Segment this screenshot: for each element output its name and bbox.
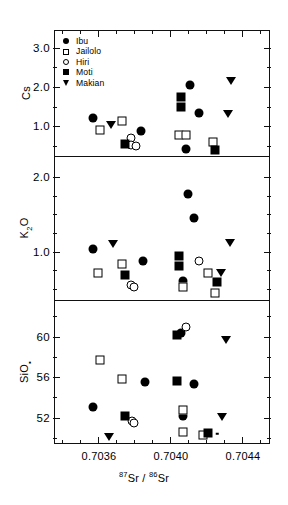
legend-label: Hiri [76, 57, 89, 67]
open-square-icon [63, 49, 69, 55]
figure-root: 3.02.01.0 Cs 2.01.0 K2O 605652 SiO▪ 0.70… [0, 0, 288, 505]
legend-label: Jailolo [76, 46, 101, 56]
x-tick-minor [224, 440, 225, 444]
filled-triangle-down-icon [63, 80, 69, 86]
x-tick-major-top [242, 30, 243, 37]
x-tick-minor [188, 440, 189, 444]
x-tick-minor [80, 440, 81, 444]
x-tick-minor [62, 440, 63, 444]
x-tick-minor [260, 440, 261, 444]
x-axis-title: 87Sr / 86Sr [0, 470, 288, 484]
x-tick-minor-top [206, 30, 207, 34]
filled-square-icon [63, 69, 69, 75]
x-tick-minor-top [224, 30, 225, 34]
legend-item-hiri: Hiri [63, 57, 104, 67]
x-tick-minor-top [62, 30, 63, 34]
legend-symbol-slot [63, 80, 76, 86]
legend: IbuJailoloHiriMotiMakian [63, 36, 104, 88]
x-tick-major [242, 437, 243, 444]
legend-label: Makian [76, 78, 104, 88]
x-axis: 0.70360.70400.7044 [0, 0, 288, 505]
legend-label: Ibu [76, 36, 88, 46]
legend-symbol-slot [63, 69, 76, 75]
x-tick-minor [134, 440, 135, 444]
x-tick-minor-top [116, 30, 117, 34]
x-tick-major-top [170, 30, 171, 37]
x-tick-label: 0.7044 [226, 450, 261, 462]
legend-symbol-slot [63, 38, 76, 44]
legend-label: Moti [76, 67, 93, 77]
x-tick-minor-top [188, 30, 189, 34]
superscript-86: 86 [149, 470, 158, 479]
superscript-87: 87 [119, 470, 128, 479]
legend-symbol-slot [63, 59, 76, 65]
legend-item-ibu: Ibu [63, 36, 104, 46]
x-tick-minor-top [260, 30, 261, 34]
x-tick-label: 0.7040 [154, 450, 189, 462]
x-tick-major [170, 437, 171, 444]
filled-circle-icon [63, 38, 69, 44]
legend-symbol-slot [63, 49, 76, 55]
x-tick-minor-top [80, 30, 81, 34]
legend-item-moti: Moti [63, 67, 104, 77]
x-tick-minor-top [134, 30, 135, 34]
x-tick-minor-top [152, 30, 153, 34]
x-tick-minor [152, 440, 153, 444]
x-tick-minor [116, 440, 117, 444]
x-tick-label: 0.7036 [82, 450, 117, 462]
open-circle-icon [63, 59, 69, 65]
legend-item-jailolo: Jailolo [63, 46, 104, 56]
x-title-text: 87Sr / 86Sr [119, 472, 169, 484]
x-tick-minor [206, 440, 207, 444]
legend-item-makian: Makian [63, 78, 104, 88]
x-tick-major [98, 437, 99, 444]
